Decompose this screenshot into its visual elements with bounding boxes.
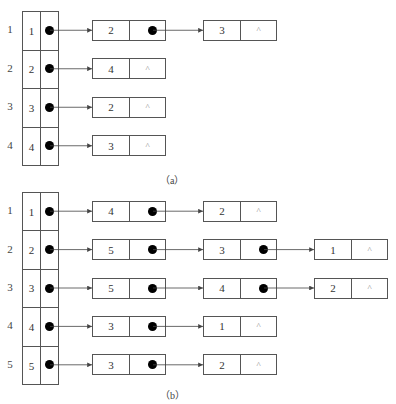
arrow-layer [0, 0, 396, 404]
